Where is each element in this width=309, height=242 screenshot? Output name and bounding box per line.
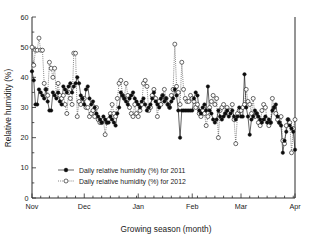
y-tick-label: 40 xyxy=(21,73,29,82)
series-2012-point xyxy=(216,136,220,140)
series-2011-point xyxy=(35,103,39,107)
series-2012-point xyxy=(110,102,114,106)
x-axis-title: Growing season (month) xyxy=(121,224,212,234)
series-2011-point xyxy=(164,97,168,101)
series-2012-point xyxy=(260,109,264,113)
series-2011-point xyxy=(175,94,179,98)
series-2011-point xyxy=(248,133,252,137)
chart-figure: 0102030405060 NovDecJanFebMarApr Daily r… xyxy=(0,0,309,242)
series-2011-point xyxy=(114,124,118,128)
series-2011-point xyxy=(56,91,60,95)
legend-swatch-2012-marker xyxy=(64,179,68,183)
series-2011-point xyxy=(283,139,287,143)
series-2011-point xyxy=(203,103,207,107)
series-2011-point xyxy=(65,91,69,95)
series-2011-point xyxy=(131,91,135,95)
series-2012-point xyxy=(211,93,215,97)
series-2011-point xyxy=(161,94,165,98)
series-2012-point xyxy=(124,81,128,85)
series-2012-point xyxy=(263,106,267,110)
series-2011-point xyxy=(42,97,46,101)
series-2011-point xyxy=(138,106,142,110)
series-2011-point xyxy=(157,106,161,110)
series-2012-point xyxy=(182,87,186,91)
series-2011-point xyxy=(30,70,34,74)
series-2012-point xyxy=(145,84,149,88)
series-2012-point xyxy=(251,96,255,100)
series-2011-point xyxy=(116,112,120,116)
series-2012-point xyxy=(42,81,46,85)
series-2011-point xyxy=(269,121,273,125)
series-2012-point xyxy=(155,115,159,119)
series-2011-point xyxy=(285,130,289,134)
series-2012-point xyxy=(213,102,217,106)
series-2012-point xyxy=(209,99,213,103)
legend-swatch-2011-marker xyxy=(64,168,68,172)
series-2011-point xyxy=(126,103,130,107)
series-2012-point xyxy=(279,115,283,119)
x-tick-label: Mar xyxy=(235,202,248,211)
x-tick-label: Jan xyxy=(132,202,144,211)
series-2011-point xyxy=(173,88,177,92)
x-tick-label: Dec xyxy=(78,202,91,211)
series-2012-point xyxy=(51,75,55,79)
series-2012-point xyxy=(47,60,51,64)
series-2012-point xyxy=(290,151,294,155)
x-tick-label: Nov xyxy=(26,202,39,211)
series-2011-point xyxy=(81,97,85,101)
series-2012-point xyxy=(37,36,41,40)
series-2011-point xyxy=(142,97,146,101)
series-2012-point xyxy=(204,124,208,128)
series-2012-point xyxy=(293,118,297,122)
series-2012-point xyxy=(68,96,72,100)
series-2012-point xyxy=(103,133,107,137)
series-2011-point xyxy=(238,106,242,110)
series-2011-point xyxy=(190,109,194,113)
series-2011-point xyxy=(143,103,147,107)
series-2011-point xyxy=(44,88,48,92)
series-2012-point xyxy=(65,112,69,116)
series-2011-point xyxy=(204,109,208,113)
series-2011-point xyxy=(83,103,87,107)
legend-label-2012: Daily relative humidity (%) for 2012 xyxy=(79,178,186,186)
series-2011-point xyxy=(210,112,214,116)
series-2012-point xyxy=(230,102,234,106)
series-2012-point xyxy=(206,115,210,119)
series-2012-point xyxy=(56,81,60,85)
series-2012-point xyxy=(215,96,219,100)
series-2011-point xyxy=(60,103,64,107)
series-2011-point xyxy=(244,106,248,110)
series-2011-point xyxy=(150,97,154,101)
series-2011-point xyxy=(196,94,200,98)
y-tick-label: 50 xyxy=(21,43,29,52)
y-tick-label: 20 xyxy=(21,133,29,142)
series-2012-point xyxy=(40,48,44,52)
series-2011-point xyxy=(171,97,175,101)
series-2011-point xyxy=(55,97,59,101)
y-tick-label: 60 xyxy=(21,13,29,22)
series-2011-point xyxy=(281,151,285,155)
series-2012-point xyxy=(115,96,119,100)
series-2011-point xyxy=(70,91,74,95)
series-2012-point xyxy=(119,78,123,82)
series-2011-point xyxy=(152,91,156,95)
series-2012-point xyxy=(244,87,248,91)
series-2012-point xyxy=(270,96,274,100)
series-2011-point xyxy=(251,115,255,119)
series-2012-point xyxy=(178,102,182,106)
series-2012-point xyxy=(162,87,166,91)
series-2011-point xyxy=(225,109,229,113)
series-2012-point xyxy=(284,124,288,128)
series-2012-point xyxy=(187,99,191,103)
series-2011-point xyxy=(49,109,53,113)
series-2011-point xyxy=(279,124,283,128)
series-2011-point xyxy=(199,112,203,116)
series-2012-point xyxy=(86,106,90,110)
series-2011-point xyxy=(100,121,104,125)
series-2011-point xyxy=(241,115,245,119)
series-2012-point xyxy=(143,78,147,82)
series-2011-point xyxy=(117,106,121,110)
series-2012-point xyxy=(180,60,184,64)
series-2012-point xyxy=(74,51,78,55)
series-2011-point xyxy=(178,136,182,140)
